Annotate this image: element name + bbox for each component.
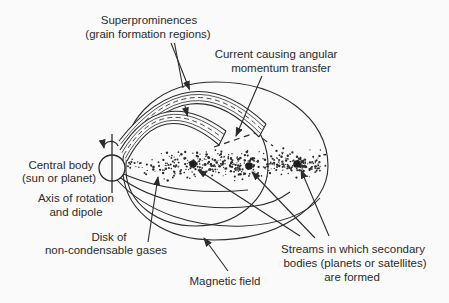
rotation-arrow-icon bbox=[104, 141, 118, 148]
figure-canvas: Superprominences (grain formation region… bbox=[0, 0, 449, 303]
superprominences-arrow-inner-upper bbox=[175, 43, 184, 88]
stream-dot bbox=[293, 160, 301, 168]
label-current-line1: Current causing angular bbox=[215, 48, 338, 60]
label-superprominences-line2: (grain formation regions) bbox=[85, 28, 210, 40]
label-disk-line2: non-condensable gases bbox=[45, 244, 167, 256]
label-central-body-line1: Central body bbox=[28, 159, 93, 171]
label-disk-line1: Disk of bbox=[91, 231, 127, 243]
figure: Superprominences (grain formation region… bbox=[0, 0, 449, 303]
band-inner-fill bbox=[120, 111, 226, 161]
label-current-line2: momentum transfer bbox=[231, 62, 331, 74]
superprominence-band-inner bbox=[120, 111, 226, 161]
label-superprominences-line1: Superprominences bbox=[101, 14, 198, 26]
label-magnetic-field: Magnetic field bbox=[190, 275, 261, 287]
stream-dot bbox=[189, 160, 197, 168]
label-streams-line1: Streams in which secondary bbox=[281, 243, 425, 255]
superprominences-arrow-outer bbox=[171, 43, 190, 90]
label-axis-line1: Axis of rotation bbox=[38, 192, 114, 204]
label-streams-line3: are formed bbox=[324, 271, 380, 283]
label-streams-line2: bodies (planets or satellites) bbox=[283, 257, 426, 269]
stream-dot bbox=[245, 162, 253, 170]
label-axis-line2: and dipole bbox=[49, 206, 102, 218]
magnetic-field-arrow bbox=[204, 238, 228, 271]
label-central-body-line2: (sun or planet) bbox=[22, 172, 96, 184]
streams-arrow-3 bbox=[301, 170, 329, 236]
magnetic-field-line-2 bbox=[118, 176, 290, 208]
